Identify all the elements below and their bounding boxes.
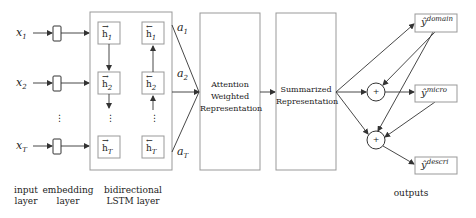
embedding-arrows <box>61 33 89 146</box>
input-xT: xT <box>16 139 27 154</box>
embedding-cells <box>53 26 61 154</box>
forward-hidden-T: →hT <box>98 136 120 158</box>
attention-weight-aT: aT <box>177 145 188 160</box>
input-x2: x2 <box>16 76 27 91</box>
label-input-layer: input layer <box>8 185 44 207</box>
attention-weight-a2: a2 <box>177 67 188 82</box>
output-y-descri: ŷdescri <box>415 157 457 174</box>
ellipsis-forward: ⋮ <box>106 116 115 120</box>
summary-output-arrows <box>336 24 414 134</box>
ellipsis-backward: ⋮ <box>150 116 159 120</box>
forward-hidden-1: →h1 <box>98 22 120 44</box>
label-lstm-layer: bidirectional LSTM layer <box>98 185 168 207</box>
label-embedding-layer: embedding layer <box>42 185 94 207</box>
backward-hidden-2: ←h2 <box>142 72 164 94</box>
combine-plus-2: + <box>370 134 382 146</box>
input-arrows <box>33 33 52 146</box>
attention-arrows <box>172 25 199 152</box>
combine-plus-1: + <box>370 86 382 98</box>
ellipsis-embedding: ⋮ <box>55 116 64 120</box>
backward-hidden-1: ←h1 <box>142 22 164 44</box>
output-y-micro: ŷmicro <box>415 85 457 102</box>
summary-box-label: Summarized Representation <box>276 84 336 108</box>
backward-hidden-T: ←hT <box>142 136 164 158</box>
forward-hidden-2: →h2 <box>98 72 120 94</box>
output-y-domain: ŷdomain <box>415 14 457 31</box>
label-outputs: outputs <box>386 188 436 199</box>
attention-weight-a1: a1 <box>177 21 188 36</box>
input-x1: x1 <box>16 26 27 41</box>
attention-box-label: Attention Weighted Representation <box>200 79 260 115</box>
